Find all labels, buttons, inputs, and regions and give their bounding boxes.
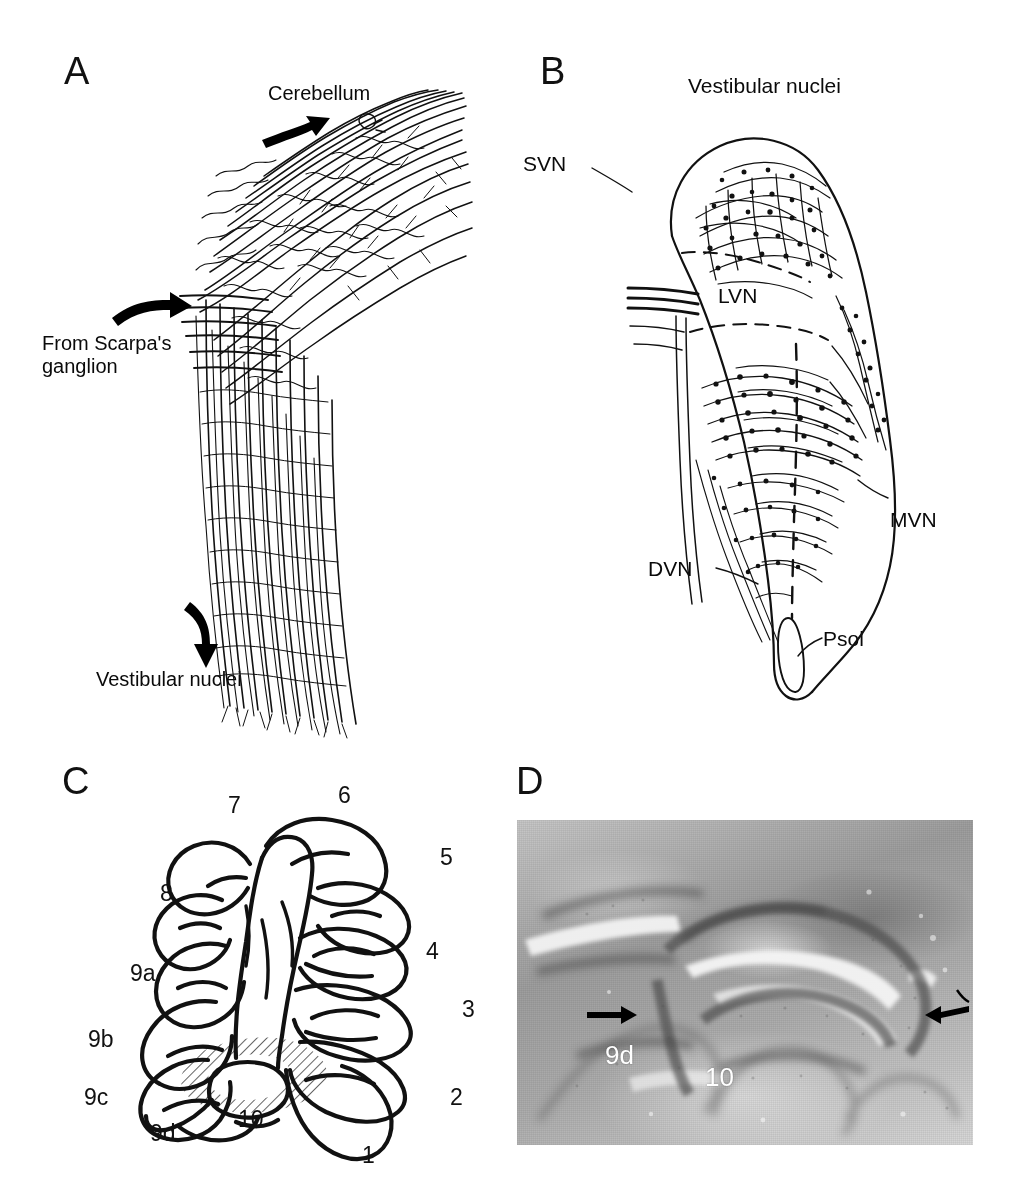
right-arrow-marker bbox=[925, 990, 969, 1024]
panel-c: C 7 6 5 8 4 9a 3 9b 9c 2 9d 10 1 bbox=[0, 740, 500, 1201]
lobule-10-label-d: 10 bbox=[705, 1064, 734, 1090]
figure-root: A Cerebellum From Scarpa's ganglion Vest… bbox=[0, 0, 1013, 1201]
panel-d-micrograph: 9d 10 bbox=[517, 820, 973, 1145]
panel-c-drawing bbox=[0, 740, 500, 1201]
left-arrow-marker bbox=[587, 1006, 637, 1024]
panel-a: A Cerebellum From Scarpa's ganglion Vest… bbox=[0, 0, 500, 740]
arrow-to-cerebellum bbox=[262, 116, 330, 148]
mvn-leader bbox=[858, 480, 888, 498]
panel-b: B Vestibular nuclei SVN LVN MVN DVN Psol bbox=[500, 0, 1013, 740]
panel-d-letter: D bbox=[516, 762, 543, 800]
panel-d: D bbox=[500, 740, 1013, 1201]
panel-b-drawing bbox=[500, 0, 1013, 740]
panel-a-drawing bbox=[0, 0, 500, 740]
svn-leader bbox=[592, 168, 632, 192]
arrow-from-scarpas-ganglion bbox=[112, 292, 192, 326]
micrograph-structures bbox=[517, 820, 973, 1145]
lobule-9d-label-d: 9d bbox=[605, 1042, 634, 1068]
